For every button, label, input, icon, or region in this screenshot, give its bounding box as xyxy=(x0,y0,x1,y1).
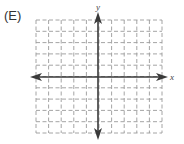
y-axis-label: y xyxy=(95,2,100,12)
coordinate-plane: x y xyxy=(0,0,184,144)
x-axis-label: x xyxy=(169,72,174,82)
